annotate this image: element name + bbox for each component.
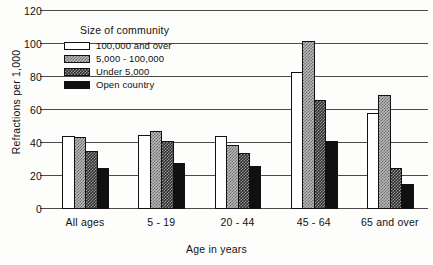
legend-item: 100,000 and over <box>64 40 172 51</box>
legend-item-label: Open country <box>96 79 154 90</box>
bar-group: 20 - 44 <box>199 11 275 209</box>
legend-item: 5,000 - 100,000 <box>64 53 172 64</box>
bar-group: 45 - 64 <box>276 11 352 209</box>
legend-item: Under 5,000 <box>64 66 172 77</box>
bar <box>325 141 337 209</box>
y-tick-label: 0 <box>36 204 42 215</box>
legend-swatch <box>64 68 90 76</box>
bar-group: 65 and over <box>352 11 428 209</box>
bar <box>97 168 109 209</box>
bar-chart: Refractions per 1,000 Age in years 02040… <box>0 0 433 265</box>
x-tick-label: 20 - 44 <box>199 216 275 228</box>
y-tick-label: 80 <box>30 72 42 83</box>
legend-swatch <box>64 42 90 50</box>
bar-set <box>215 11 261 209</box>
legend-swatch <box>64 55 90 63</box>
x-tick-label: 65 and over <box>352 216 428 228</box>
bar <box>173 163 185 209</box>
legend-item: Open country <box>64 79 172 90</box>
legend: Size of community 100,000 and over5,000 … <box>64 24 172 92</box>
legend-item-label: 100,000 and over <box>96 40 172 51</box>
y-axis-title: Refractions per 1,000 <box>10 32 22 172</box>
bar <box>401 184 413 209</box>
legend-items: 100,000 and over5,000 - 100,000Under 5,0… <box>64 40 172 90</box>
x-axis-title: Age in years <box>0 243 433 255</box>
x-tick-label: 45 - 64 <box>276 216 352 228</box>
x-tick-label: 5 - 19 <box>123 216 199 228</box>
bar-set <box>367 11 413 209</box>
legend-item-label: Under 5,000 <box>96 66 149 77</box>
y-tick-label: 100 <box>24 39 42 50</box>
bar <box>249 166 261 209</box>
y-tick-label: 60 <box>30 105 42 116</box>
bar-set <box>291 11 337 209</box>
legend-swatch <box>64 81 90 89</box>
y-tick-label: 120 <box>24 6 42 17</box>
x-tick-label: All ages <box>47 216 123 228</box>
legend-title: Size of community <box>80 24 172 36</box>
legend-item-label: 5,000 - 100,000 <box>96 53 164 64</box>
y-tick-label: 40 <box>30 138 42 149</box>
y-tick-label: 20 <box>30 171 42 182</box>
